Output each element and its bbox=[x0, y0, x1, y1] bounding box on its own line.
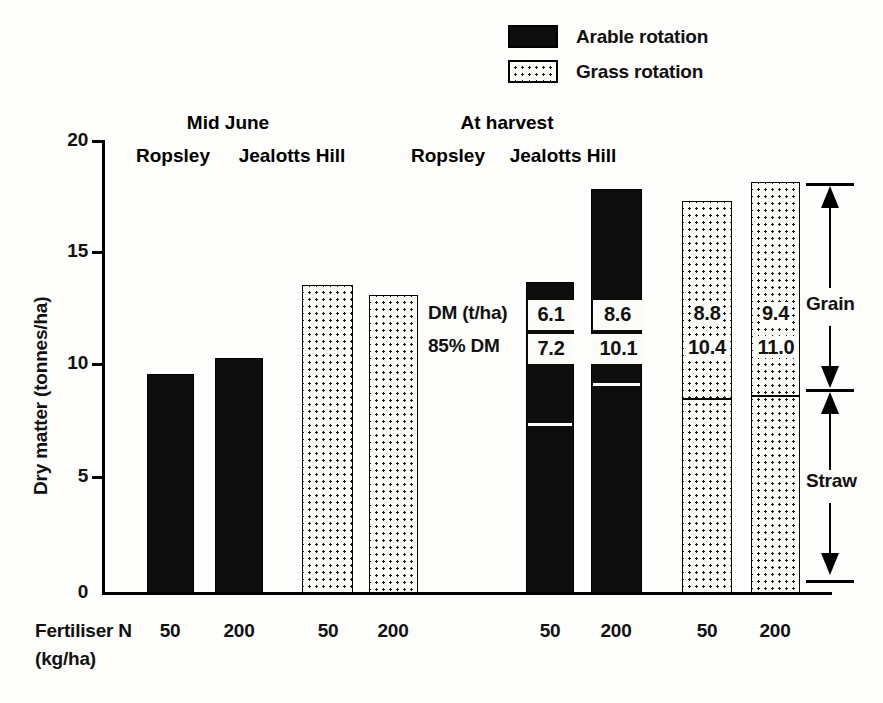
legend-item-grass: Grass rotation bbox=[508, 60, 703, 83]
x-tick-label-at-harvest-ropsley-200: 200 bbox=[586, 620, 646, 642]
group-header-at-harvest: At harvest bbox=[427, 112, 587, 134]
y-tick-5 bbox=[92, 476, 103, 479]
annotation-arrow-straw-bottom-icon bbox=[821, 553, 839, 575]
bar-mid-june-ropsley-50 bbox=[147, 374, 194, 593]
value-dm85-at-harvest-ropsley-50: 7.2 bbox=[528, 334, 574, 364]
bar-mid-june-jealotts-hill-200 bbox=[369, 295, 418, 593]
value-dm85-at-harvest-jealotts-hill-200: 11.0 bbox=[750, 334, 802, 362]
bar-at-harvest-ropsley-200 bbox=[591, 189, 642, 593]
annotation-label-straw: Straw bbox=[806, 470, 857, 492]
y-tick-15 bbox=[92, 251, 103, 254]
legend-swatch-grass-icon bbox=[508, 60, 558, 83]
value-dm-at-harvest-jealotts-hill-50: 8.8 bbox=[683, 300, 731, 328]
y-tick-label-0: 0 bbox=[48, 581, 88, 603]
x-tick-label-mid-june-jealotts-hill-50: 50 bbox=[298, 620, 358, 642]
x-tick-label-mid-june-ropsley-50: 50 bbox=[140, 620, 200, 642]
value-dm85-at-harvest-jealotts-hill-200-text: 11.0 bbox=[756, 336, 795, 358]
value-dm85-at-harvest-ropsley-200: 10.1 bbox=[591, 334, 646, 364]
legend-label-arable: Arable rotation bbox=[576, 26, 708, 48]
bar-mid-june-jealotts-hill-50 bbox=[302, 285, 353, 593]
legend-item-arable: Arable rotation bbox=[508, 25, 708, 48]
value-dm-at-harvest-jealotts-hill-50-text: 8.8 bbox=[692, 302, 721, 324]
annotation-label-grain: Grain bbox=[806, 293, 855, 315]
y-tick-label-15: 15 bbox=[48, 240, 88, 262]
bar-at-harvest-jealotts-hill-200 bbox=[751, 182, 800, 593]
bar-split-line-at-harvest-ropsley-50 bbox=[528, 423, 572, 426]
bar-mid-june-ropsley-200 bbox=[215, 358, 263, 593]
x-tick-label-at-harvest-jealotts-hill-50: 50 bbox=[677, 620, 737, 642]
y-axis-title: Dry matter (tonnes/ha) bbox=[30, 297, 52, 495]
bar-split-line-at-harvest-ropsley-200 bbox=[593, 383, 640, 386]
value-dm-at-harvest-ropsley-50: 6.1 bbox=[528, 300, 574, 330]
value-dm85-at-harvest-jealotts-hill-50-text: 10.4 bbox=[687, 336, 727, 358]
annotation-stem-grain-lower bbox=[829, 326, 831, 368]
x-axis-title-line2: (kg/ha) bbox=[35, 648, 96, 670]
x-axis-title-line1: Fertiliser N bbox=[35, 620, 132, 642]
y-tick-label-10: 10 bbox=[48, 352, 88, 374]
annotation-stem-grain-upper bbox=[829, 206, 831, 288]
x-tick-label-at-harvest-ropsley-50: 50 bbox=[520, 620, 580, 642]
bar-at-harvest-jealotts-hill-50 bbox=[682, 201, 732, 593]
site-header-jealotts-hill-at-harvest: Jealotts Hill bbox=[493, 145, 633, 167]
y-tick-label-20: 20 bbox=[48, 129, 88, 151]
site-header-jealotts-hill-mid-june: Jealotts Hill bbox=[222, 145, 362, 167]
y-axis-line bbox=[102, 140, 105, 595]
annotation-cap-bottom bbox=[806, 580, 854, 583]
y-tick-10 bbox=[92, 363, 103, 366]
value-dm-at-harvest-jealotts-hill-200-text: 9.4 bbox=[761, 302, 790, 324]
y-tick-label-5: 5 bbox=[48, 465, 88, 487]
bar-split-line-at-harvest-jealotts-hill-50 bbox=[683, 398, 731, 400]
annotation-stem-straw-upper bbox=[829, 412, 831, 470]
value-dm-at-harvest-ropsley-200: 8.6 bbox=[593, 300, 642, 330]
row-label-dm: DM (t/ha) bbox=[428, 302, 507, 324]
y-tick-20 bbox=[92, 140, 103, 143]
legend-label-grass: Grass rotation bbox=[576, 61, 703, 83]
chart-figure: Arable rotation Grass rotation Mid June … bbox=[0, 0, 883, 703]
row-label-dm85: 85% DM bbox=[428, 335, 500, 357]
x-tick-label-mid-june-jealotts-hill-200: 200 bbox=[363, 620, 423, 642]
legend-swatch-arable-icon bbox=[508, 25, 558, 48]
annotation-arrow-grain-bottom-icon bbox=[821, 366, 839, 388]
bar-split-line-at-harvest-jealotts-hill-200 bbox=[752, 395, 799, 397]
x-tick-label-mid-june-ropsley-200: 200 bbox=[209, 620, 269, 642]
value-dm85-at-harvest-jealotts-hill-50: 10.4 bbox=[681, 334, 733, 362]
x-tick-label-at-harvest-jealotts-hill-200: 200 bbox=[745, 620, 805, 642]
annotation-stem-straw-lower bbox=[829, 503, 831, 555]
group-header-mid-june: Mid June bbox=[148, 112, 308, 134]
value-dm-at-harvest-jealotts-hill-200: 9.4 bbox=[752, 300, 799, 328]
annotation-arrow-straw-top-icon bbox=[821, 392, 839, 414]
annotation-arrow-grain-top-icon bbox=[821, 186, 839, 208]
